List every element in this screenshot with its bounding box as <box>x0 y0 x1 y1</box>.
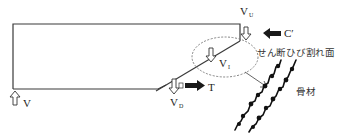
force-subscript: D <box>179 103 183 109</box>
solid-arrow-right-icon <box>179 80 205 91</box>
solid-arrow-left-icon <box>263 28 281 39</box>
beam-outline <box>13 24 240 91</box>
label-tension: T <box>208 82 215 93</box>
diagram-canvas <box>0 0 355 133</box>
aggregate-particles <box>237 64 294 129</box>
force-label: V <box>219 57 227 69</box>
label-v-support: V <box>23 98 31 109</box>
hollow-arrow-down-icon <box>241 27 251 40</box>
force-label: V <box>240 5 248 17</box>
force-label: V <box>23 97 31 109</box>
force-label: V <box>170 96 178 108</box>
label-v-interlock: VI <box>219 58 230 70</box>
force-subscript: U <box>249 12 253 18</box>
aggregate-crack-lines <box>235 60 296 132</box>
label-aggregate: 骨材 <box>296 87 315 97</box>
hollow-arrow-up-icon <box>10 91 20 105</box>
force-label: T <box>208 81 215 93</box>
hollow-arrow-down-icon <box>169 79 179 94</box>
force-label: C′ <box>284 27 294 39</box>
label-v-upper: VU <box>240 6 253 18</box>
force-subscript: I <box>228 64 230 70</box>
label-c-prime: C′ <box>284 28 294 39</box>
label-v-dowel: VD <box>170 97 183 109</box>
label-crack-surface: せん断ひび割れ面 <box>257 48 335 58</box>
